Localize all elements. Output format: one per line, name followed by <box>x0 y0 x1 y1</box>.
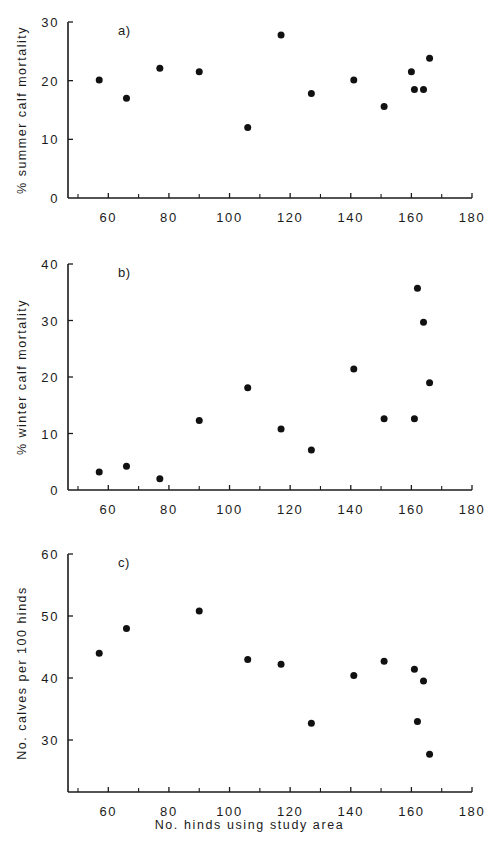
data-point <box>420 86 427 93</box>
data-point <box>244 384 251 391</box>
y-tick-label: 30 <box>41 733 59 748</box>
y-tick-label: 40 <box>41 257 59 272</box>
data-point <box>426 751 433 758</box>
x-tick-label: 180 <box>459 210 486 225</box>
data-point <box>411 666 418 673</box>
data-point <box>411 86 418 93</box>
y-tick-label: 0 <box>50 483 59 498</box>
data-point <box>381 658 388 665</box>
data-point <box>244 124 251 131</box>
panel-a: 01020306080100120140160180% summer calf … <box>0 0 499 232</box>
y-tick-label: 10 <box>41 132 59 147</box>
data-point <box>308 720 315 727</box>
x-tick-label: 60 <box>99 804 117 819</box>
data-point <box>96 650 103 657</box>
x-tick-label: 100 <box>216 804 243 819</box>
y-axis-title: % winter calf mortality <box>15 299 29 455</box>
data-point <box>420 678 427 685</box>
x-tick-label: 140 <box>338 804 365 819</box>
data-point <box>308 446 315 453</box>
x-tick-label: 160 <box>398 502 425 517</box>
data-point <box>196 608 203 615</box>
y-tick-label: 40 <box>41 671 59 686</box>
y-tick-label: 20 <box>41 74 59 89</box>
data-point <box>96 468 103 475</box>
data-point <box>414 285 421 292</box>
y-axis-title: % summer calf mortality <box>15 26 29 194</box>
x-tick-label: 140 <box>338 502 365 517</box>
x-tick-label: 80 <box>160 210 178 225</box>
data-point <box>308 90 315 97</box>
data-point <box>156 65 163 72</box>
data-point <box>278 425 285 432</box>
x-tick-label: 120 <box>277 210 304 225</box>
y-tick-label: 30 <box>41 15 59 30</box>
y-tick-label: 10 <box>41 427 59 442</box>
x-tick-label: 160 <box>398 804 425 819</box>
data-point <box>96 77 103 84</box>
x-tick-label: 120 <box>277 502 304 517</box>
data-point <box>414 718 421 725</box>
x-tick-label: 60 <box>99 210 117 225</box>
y-tick-label: 60 <box>41 547 59 562</box>
data-point <box>123 95 130 102</box>
x-tick-label: 60 <box>99 502 117 517</box>
data-point <box>350 366 357 373</box>
data-point <box>426 379 433 386</box>
data-point <box>426 55 433 62</box>
data-point <box>123 625 130 632</box>
panel-label: a) <box>118 23 131 38</box>
x-tick-label: 180 <box>459 502 486 517</box>
panel-label: b) <box>118 265 131 280</box>
x-tick-label: 100 <box>216 210 243 225</box>
data-point <box>196 68 203 75</box>
y-tick-label: 20 <box>41 370 59 385</box>
panel-label: c) <box>118 555 130 570</box>
x-tick-label: 80 <box>160 502 178 517</box>
panel-b-plot: 0102030406080100120140160180% winter cal… <box>0 232 499 524</box>
panel-a-plot: 01020306080100120140160180% summer calf … <box>0 0 499 232</box>
data-point <box>350 77 357 84</box>
data-point <box>278 31 285 38</box>
data-point <box>244 656 251 663</box>
data-point <box>196 417 203 424</box>
y-tick-label: 0 <box>50 191 59 206</box>
data-point <box>420 319 427 326</box>
y-axis-title: No. calves per 100 hinds <box>15 586 29 760</box>
x-tick-label: 80 <box>160 804 178 819</box>
x-axis-title: No. hinds using study area <box>0 818 499 832</box>
scatter-figure: 01020306080100120140160180% summer calf … <box>0 0 499 858</box>
panel-c: 304050606080100120140160180No. calves pe… <box>0 524 499 858</box>
x-tick-label: 120 <box>277 804 304 819</box>
panel-b: 0102030406080100120140160180% winter cal… <box>0 232 499 524</box>
x-tick-label: 180 <box>459 804 486 819</box>
data-point <box>123 463 130 470</box>
data-point <box>278 661 285 668</box>
x-tick-label: 160 <box>398 210 425 225</box>
panel-c-plot: 304050606080100120140160180No. calves pe… <box>0 524 499 858</box>
x-tick-label: 140 <box>338 210 365 225</box>
x-tick-label: 100 <box>216 502 243 517</box>
data-point <box>381 103 388 110</box>
y-tick-label: 30 <box>41 314 59 329</box>
data-point <box>350 672 357 679</box>
data-point <box>381 415 388 422</box>
data-point <box>408 68 415 75</box>
y-tick-label: 50 <box>41 609 59 624</box>
data-point <box>411 415 418 422</box>
data-point <box>156 475 163 482</box>
